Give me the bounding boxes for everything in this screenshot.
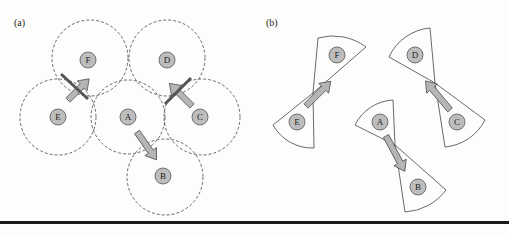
bottom-rule [0,221,509,224]
node-label: A [125,112,132,122]
node-label: A [377,117,384,127]
node-label: B [160,171,166,181]
sector-ab [355,100,446,212]
node-label: E [294,117,300,127]
node-label: B [415,182,421,192]
arrow-c-to-d [164,78,197,111]
node-label: C [197,112,203,122]
node-label: E [55,112,61,122]
sector-cd [389,28,485,147]
panel-b-label: (b) [266,17,278,28]
panel-a-label: (a) [14,17,25,28]
node-label: D [164,55,171,65]
node-label: D [412,50,419,60]
node-label: F [85,55,90,65]
diagram-canvas: F D E A C B F D E A C B [0,0,509,237]
node-label: C [454,117,460,127]
arrow-a-to-b [131,128,162,164]
node-label: F [334,50,339,60]
